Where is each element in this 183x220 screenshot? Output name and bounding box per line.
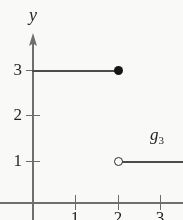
segment-y3 — [32, 70, 119, 72]
y-tick-label-1: 1 — [2, 152, 22, 169]
x-axis-line — [0, 202, 183, 204]
y-axis-arrow-icon — [27, 33, 39, 47]
y-axis-label: y — [29, 6, 37, 24]
curve-label-subscript: 3 — [159, 134, 165, 146]
y-tick-label-group: 3 2 1 — [0, 0, 22, 220]
segment-y1 — [118, 161, 183, 163]
graph-figure: y 3 2 1 1 2 3 g3 — [0, 0, 183, 220]
y-tick-1 — [26, 161, 40, 162]
y-tick-2 — [26, 115, 40, 116]
y-tick-label-3: 3 — [2, 61, 22, 78]
y-tick-label-2: 2 — [2, 106, 22, 123]
x-tick-label-1: 1 — [65, 209, 85, 220]
x-tick-label-2: 2 — [108, 209, 128, 220]
open-point-marker — [114, 157, 123, 166]
x-tick-label-3: 3 — [150, 209, 170, 220]
curve-label-g3: g3 — [150, 126, 164, 146]
closed-point-marker — [114, 66, 123, 75]
y-axis-line — [32, 36, 34, 220]
curve-label-base: g — [150, 125, 159, 144]
